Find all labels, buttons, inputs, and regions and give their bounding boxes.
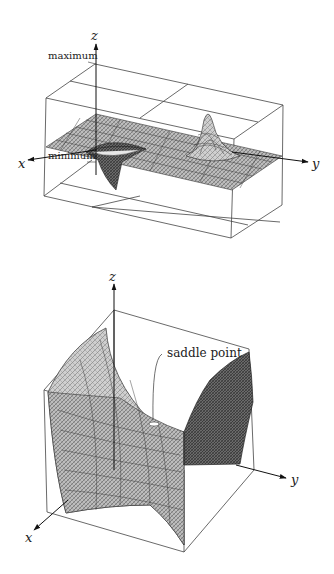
saddle-point-label: saddle point — [167, 346, 242, 360]
figure-bottom-saddle: z x y saddle point — [25, 269, 299, 552]
minimum-label: minimum — [48, 150, 96, 161]
maximum-tick — [88, 62, 96, 64]
y-axis-label-top: y — [311, 156, 320, 171]
x-axis-bottom — [34, 500, 68, 530]
x-axis-label-bottom: x — [25, 530, 33, 545]
saddle-point-leader — [153, 354, 162, 420]
x-axis-label-top: x — [18, 156, 26, 171]
figure-top-max-min: z x y maximum minimum — [18, 28, 320, 238]
saddle-surface — [48, 328, 253, 545]
y-axis-label-bottom: y — [290, 472, 299, 487]
z-axis-label-top: z — [90, 28, 98, 43]
y-axis-bottom — [236, 465, 286, 478]
z-axis-label-bottom: z — [108, 269, 116, 284]
maximum-label: maximum — [48, 50, 98, 61]
figures-canvas: z x y maximum minimum — [0, 0, 334, 574]
saddle-point-marker — [149, 422, 159, 426]
